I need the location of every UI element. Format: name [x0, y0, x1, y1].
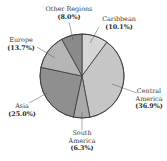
- label-europe: Europe (13.7%): [4, 37, 38, 52]
- label-europe-pct: (13.7%): [4, 45, 38, 53]
- label-caribbean-pct: (10.1%): [94, 24, 144, 32]
- label-south-america: South America (6.3%): [64, 130, 100, 153]
- leader-line-asia: [29, 93, 47, 103]
- label-asia-pct: (25.0%): [6, 111, 38, 119]
- label-central-america: Central America (36.9%): [132, 88, 166, 111]
- label-south-america-pct: (6.3%): [64, 145, 100, 153]
- label-central-america-pct: (36.9%): [132, 103, 166, 111]
- label-caribbean: Caribbean (10.1%): [94, 16, 144, 31]
- pie-slices: [40, 34, 124, 118]
- label-other-regions: Other Regions (8.0%): [40, 6, 98, 21]
- label-other-regions-pct: (8.0%): [40, 14, 98, 22]
- label-asia: Asia (25.0%): [6, 103, 38, 118]
